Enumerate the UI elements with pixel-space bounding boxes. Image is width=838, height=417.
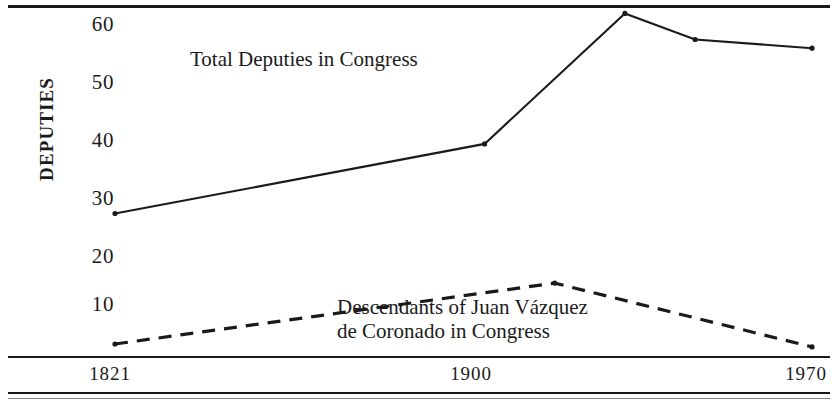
data-point-marker — [622, 11, 627, 16]
data-point-marker — [112, 341, 117, 346]
chart-figure: DEPUTIES 60 50 40 30 20 10 1821 1900 197… — [0, 0, 838, 417]
data-point-marker — [552, 281, 557, 286]
data-point-marker — [693, 37, 698, 42]
plot-area — [0, 0, 838, 417]
data-point-marker — [809, 46, 814, 51]
annotation-descendants-line1: Descendants of Juan Vázquez — [337, 296, 588, 320]
annotation-descendants: Descendants of Juan Vázquez de Coronado … — [337, 296, 588, 343]
data-point-marker — [482, 141, 487, 146]
annotation-descendants-line2: de Coronado in Congress — [337, 320, 588, 344]
annotation-total-deputies: Total Deputies in Congress — [190, 48, 418, 72]
series-total-deputies — [115, 13, 812, 213]
data-point-marker — [809, 344, 814, 349]
data-point-marker — [112, 211, 117, 216]
